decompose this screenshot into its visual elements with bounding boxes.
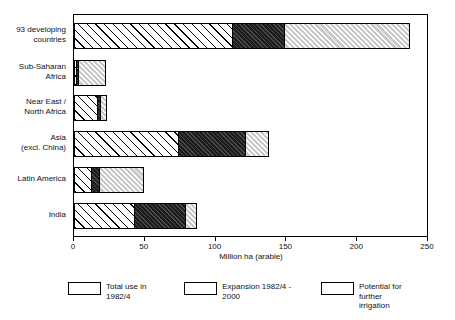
y-axis-label-4: Latin America (0, 174, 66, 184)
legend-swatch-total-use-icon (68, 282, 101, 295)
x-tick-mark-0 (73, 237, 74, 241)
x-tick-label-100: 100 (208, 242, 221, 252)
x-tick-label-250: 250 (420, 242, 433, 252)
bar-segment-potential (78, 60, 106, 86)
bar-3 (74, 131, 268, 157)
bar-2 (74, 95, 106, 121)
legend-swatch-expansion-icon (184, 282, 217, 295)
legend-swatch-potential-icon (321, 282, 354, 295)
bar-segment-potential (185, 203, 196, 229)
bar-segment-total-use (74, 203, 135, 229)
bar-segment-potential (99, 167, 144, 193)
legend-label-potential: Potential for further irrigation (359, 282, 420, 311)
bar-segment-expansion (134, 203, 186, 229)
bar-chart: 93 developing countries Sub-Saharan Afri… (0, 0, 455, 320)
legend-item-total-use: Total use in 1982/4 (68, 282, 166, 301)
x-tick-mark-50 (144, 237, 145, 241)
bar-segment-potential (284, 23, 410, 49)
bar-segment-total-use (74, 95, 98, 121)
x-tick-mark-200 (356, 237, 357, 241)
bar-segment-total-use (74, 131, 179, 157)
bar-segment-expansion (232, 23, 286, 49)
x-tick-label-0: 0 (71, 242, 75, 252)
bar-segment-potential (100, 95, 107, 121)
bar-0 (74, 23, 409, 49)
x-tick-mark-250 (427, 237, 428, 241)
y-axis-label-5: India (0, 210, 66, 220)
x-tick-mark-100 (215, 237, 216, 241)
y-axis-label-3: Asia (excl. China) (0, 133, 66, 152)
y-axis-label-2: Near East / North Africa (0, 97, 66, 116)
y-axis-label-1: Sub-Saharan Africa (0, 62, 66, 81)
bar-4 (74, 167, 143, 193)
bar-5 (74, 203, 196, 229)
x-tick-label-50: 50 (139, 242, 148, 252)
x-tick-label-150: 150 (279, 242, 292, 252)
bar-segment-expansion (178, 131, 246, 157)
plot-area (73, 14, 428, 237)
bar-segment-total-use (74, 167, 92, 193)
legend-label-total-use: Total use in 1982/4 (106, 282, 166, 301)
chart-legend: Total use in 1982/4 Expansion 1982/4 - 2… (68, 282, 438, 312)
bar-segment-potential (245, 131, 269, 157)
x-tick-mark-150 (285, 237, 286, 241)
x-axis-title: Million ha (arable) (73, 252, 429, 261)
legend-item-potential: Potential for further irrigation (321, 282, 420, 311)
bar-segment-total-use (74, 23, 233, 49)
legend-item-expansion: Expansion 1982/4 - 2000 (184, 282, 303, 301)
legend-label-expansion: Expansion 1982/4 - 2000 (222, 282, 303, 301)
bar-1 (74, 60, 105, 86)
y-axis-label-0: 93 developing countries (0, 25, 66, 44)
x-tick-label-200: 200 (350, 242, 363, 252)
y-axis-category-labels: 93 developing countries Sub-Saharan Afri… (0, 14, 69, 237)
